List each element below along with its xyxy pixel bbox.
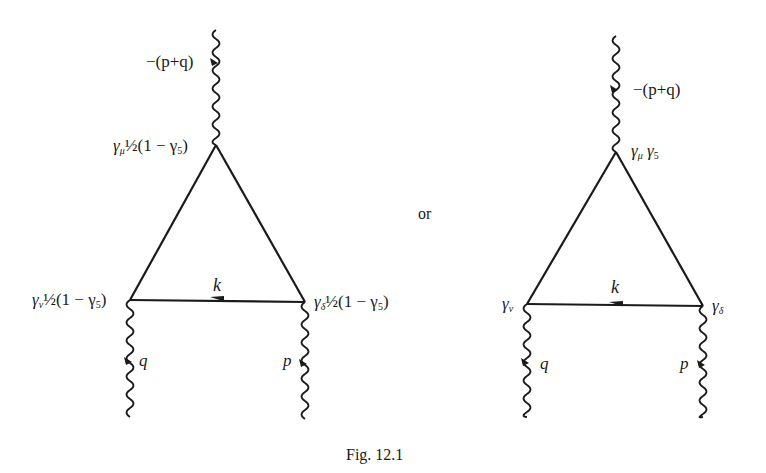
left-loop-momentum-label: k [213, 276, 221, 294]
vertex-factor: ½(1 − γ [125, 136, 178, 155]
figure-caption: Fig. 12.1 [346, 447, 403, 463]
left-top-vertex-label: γμ½(1 − γ5) [113, 137, 188, 156]
vertex-factor: ½(1 − γ [325, 292, 378, 311]
fermion-line-right-side [216, 145, 305, 302]
vertex-index: μ [638, 150, 643, 161]
vertex-factor-close: ) [383, 292, 389, 311]
right-bottom-right-vertex-label: γδ [712, 297, 723, 316]
feynman-diagram-figure [0, 0, 766, 473]
vertex-factor: ½(1 − γ [43, 290, 96, 309]
vertex-factor-sub: 5 [654, 150, 659, 161]
fermion-line-bottom [527, 304, 703, 306]
photon-line-bottom-right [302, 302, 309, 419]
fermion-line-left-side [130, 145, 216, 300]
photon-line-bottom-left [127, 300, 134, 417]
gamma-symbol: γ [631, 141, 638, 160]
left-p-momentum-label: p [283, 352, 292, 369]
left-bottom-right-vertex-label: γδ½(1 − γ5) [314, 293, 389, 312]
vertex-factor-close: ) [101, 290, 107, 309]
gamma-symbol: γ [502, 294, 509, 313]
gamma-symbol: γ [32, 290, 39, 309]
right-top-momentum-label: −(p+q) [633, 81, 681, 98]
right-p-momentum-label: p [680, 355, 689, 372]
fermion-line-left-side [527, 152, 616, 304]
right-loop-momentum-label: k [611, 278, 619, 296]
vertex-factor: γ [647, 141, 654, 160]
or-separator: or [418, 206, 431, 222]
photon-line-top [213, 30, 220, 145]
left-bottom-left-vertex-label: γν½(1 − γ5) [32, 291, 106, 310]
gamma-symbol: γ [712, 296, 719, 315]
photon-line-top [613, 36, 620, 152]
fermion-line-bottom [130, 300, 305, 302]
left-q-momentum-label: q [139, 352, 148, 369]
fermion-line-right-side [616, 152, 703, 306]
right-q-momentum-label: q [540, 355, 549, 372]
vertex-index: δ [719, 305, 724, 316]
vertex-factor-close: ) [182, 136, 188, 155]
left-top-momentum-label: −(p+q) [146, 53, 194, 70]
vertex-index: ν [509, 303, 513, 314]
right-top-vertex-label: γμ γ5 [631, 142, 659, 161]
photon-line-bottom-right [700, 306, 707, 417]
gamma-symbol: γ [314, 292, 321, 311]
gamma-symbol: γ [113, 136, 120, 155]
left-diagram [124, 30, 309, 419]
right-bottom-left-vertex-label: γν [502, 295, 513, 314]
